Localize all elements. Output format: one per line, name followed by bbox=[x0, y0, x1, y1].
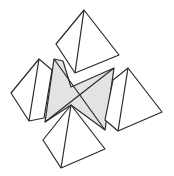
top-pyramid bbox=[56, 10, 119, 73]
diagram-canvas bbox=[0, 0, 174, 176]
left-pyramid bbox=[11, 59, 52, 121]
right-pyramid bbox=[105, 68, 162, 131]
pyramids-diagram bbox=[0, 0, 174, 176]
